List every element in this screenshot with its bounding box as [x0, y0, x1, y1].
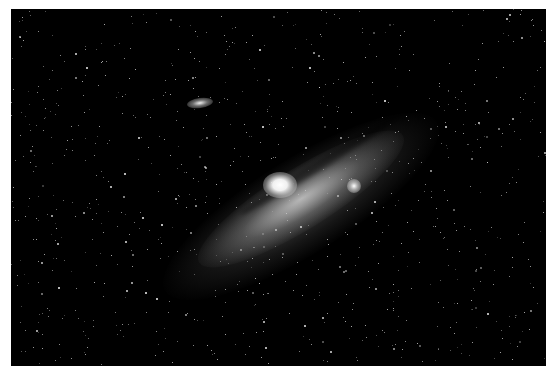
star [166, 104, 167, 105]
star [520, 139, 521, 140]
star [292, 67, 293, 68]
star [55, 223, 56, 224]
star [494, 270, 495, 271]
star [264, 45, 265, 46]
star [249, 346, 250, 347]
star [195, 199, 196, 200]
star [345, 321, 346, 322]
star [255, 111, 256, 112]
star [378, 346, 379, 347]
star [85, 138, 86, 139]
star [59, 344, 60, 345]
star [64, 315, 65, 316]
star [163, 95, 164, 96]
star [89, 109, 90, 110]
star [41, 262, 43, 264]
star [186, 207, 187, 208]
star [268, 363, 269, 364]
star [443, 238, 444, 239]
star [172, 65, 173, 66]
star [498, 41, 499, 42]
star [295, 24, 296, 25]
star [169, 301, 170, 302]
star [161, 224, 163, 226]
star [72, 202, 73, 203]
star [147, 280, 148, 281]
star [212, 354, 213, 355]
star [350, 80, 351, 81]
star [447, 200, 448, 201]
star [71, 358, 72, 359]
star [132, 266, 133, 267]
star [322, 317, 324, 319]
star [131, 250, 132, 251]
star [47, 214, 48, 215]
star [104, 24, 105, 25]
star [42, 348, 43, 349]
star [437, 326, 438, 327]
star [96, 175, 97, 176]
star [314, 71, 315, 72]
star [13, 89, 14, 90]
star [147, 249, 148, 250]
star [179, 196, 180, 197]
star [165, 338, 166, 339]
star [289, 313, 290, 314]
star [281, 118, 282, 119]
star [179, 26, 180, 27]
star [366, 337, 367, 338]
star [437, 101, 438, 102]
star [41, 293, 43, 295]
star [56, 258, 57, 259]
star [21, 46, 22, 47]
galaxy-core [263, 172, 297, 198]
star [327, 313, 328, 314]
star [25, 351, 26, 352]
star [151, 163, 152, 164]
star [369, 287, 370, 288]
star [480, 192, 481, 193]
star [114, 45, 115, 46]
star [217, 359, 218, 360]
star [406, 320, 407, 321]
star [387, 309, 388, 310]
star [533, 25, 534, 26]
star [25, 330, 26, 331]
star [183, 127, 184, 128]
star [118, 92, 119, 93]
star [461, 353, 462, 354]
star [514, 131, 515, 132]
star [520, 14, 521, 15]
star [58, 287, 60, 289]
star [224, 98, 225, 99]
star [60, 55, 61, 56]
star [488, 231, 489, 232]
star [480, 281, 481, 282]
star [462, 25, 463, 26]
star [319, 295, 320, 296]
star [124, 58, 125, 59]
star [156, 331, 157, 332]
star [541, 30, 542, 31]
star [534, 102, 535, 103]
star [22, 17, 23, 18]
star [190, 25, 191, 26]
star [33, 239, 34, 240]
star [32, 146, 33, 147]
star [30, 150, 32, 152]
star [187, 313, 188, 314]
star [238, 291, 239, 292]
star [222, 316, 223, 317]
star [147, 114, 148, 115]
star [398, 296, 399, 297]
star [482, 43, 483, 44]
star [60, 357, 61, 358]
star [190, 52, 191, 53]
star [78, 318, 79, 319]
star [351, 112, 352, 113]
star [425, 184, 426, 185]
star [404, 31, 405, 32]
star [376, 56, 377, 57]
star [319, 87, 320, 88]
star [376, 335, 377, 336]
